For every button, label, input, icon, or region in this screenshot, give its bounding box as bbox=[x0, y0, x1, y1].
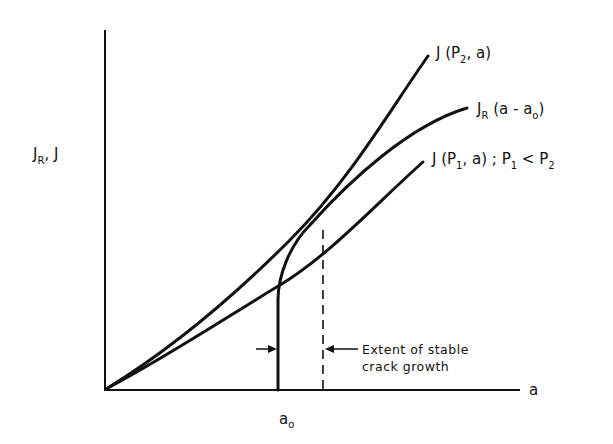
y-axis-label: JR, J bbox=[32, 145, 58, 166]
x-tick-a0: ao bbox=[279, 410, 294, 430]
j-resistance-diagram: JR, J a ao J (P2, a) JR (a - ao) J (P1, … bbox=[0, 0, 613, 444]
label-j-r: JR (a - ao) bbox=[476, 100, 544, 121]
arrow-right-head-icon bbox=[268, 345, 277, 353]
annotation-line-1: Extent of stable bbox=[362, 342, 469, 357]
label-j-p2: J (P2, a) bbox=[435, 44, 491, 65]
arrow-left-head-icon bbox=[325, 345, 334, 353]
label-j-p1: J (P1, a) ; P1 < P2 bbox=[431, 150, 555, 171]
annotation-line-2: crack growth bbox=[362, 359, 449, 374]
curve-j-p2 bbox=[106, 56, 428, 389]
x-axis-label: a bbox=[529, 381, 538, 399]
